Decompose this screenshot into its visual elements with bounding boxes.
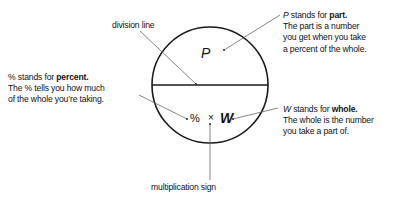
- leader-dot-percent: [186, 118, 188, 120]
- leader-dot-multiplication-sign: [209, 123, 211, 125]
- division-line-label: division line: [112, 20, 154, 31]
- annotation-part-term: part.: [329, 10, 347, 20]
- annotation-whole-line-2: you take a part of.: [283, 126, 374, 137]
- annotation-part: P stands for part. The part is a number …: [283, 10, 367, 55]
- annotation-percent-headline: % stands for percent.: [8, 72, 105, 83]
- leader-dot-part: [223, 49, 225, 51]
- annotation-whole-lead: stands for: [293, 104, 329, 114]
- annotation-percent-lead: stands for: [18, 72, 54, 82]
- leader-percent: [139, 95, 187, 119]
- annotation-part-headline: P stands for part.: [283, 10, 367, 21]
- percent-circle-figure: P % × W division line multiplication sig…: [0, 0, 405, 202]
- annotation-whole: W stands for whole. The whole is the num…: [283, 104, 374, 138]
- leader-whole: [233, 108, 278, 119]
- annotation-whole-symbol: W: [283, 104, 291, 114]
- annotation-percent-line-2: of the whole you’re taking.: [8, 94, 105, 105]
- annotation-whole-term: whole.: [332, 104, 358, 114]
- annotation-percent: % stands for percent. The % tells you ho…: [8, 72, 105, 106]
- leader-division-line: [140, 31, 196, 84]
- multiplication-sign-label: multiplication sign: [151, 182, 216, 193]
- annotation-percent-symbol: %: [8, 72, 16, 82]
- annotation-part-line-1: The part is a number: [283, 21, 367, 32]
- annotation-whole-headline: W stands for whole.: [283, 104, 374, 115]
- percent-symbol: %: [190, 112, 200, 124]
- part-symbol: P: [201, 45, 210, 61]
- annotation-part-line-3: a percent of the whole.: [283, 44, 367, 55]
- leader-dot-division-line: [195, 83, 197, 85]
- annotation-part-lead: stands for: [291, 10, 327, 20]
- annotation-whole-line-1: The whole is the number: [283, 115, 374, 126]
- annotation-percent-line-1: The % tells you how much: [8, 83, 105, 94]
- annotation-part-line-2: you get when you take: [283, 32, 367, 43]
- annotation-percent-term: percent.: [56, 72, 88, 82]
- annotation-part-symbol: P: [283, 10, 289, 20]
- multiplication-symbol: ×: [208, 112, 214, 123]
- whole-symbol: W: [220, 110, 233, 126]
